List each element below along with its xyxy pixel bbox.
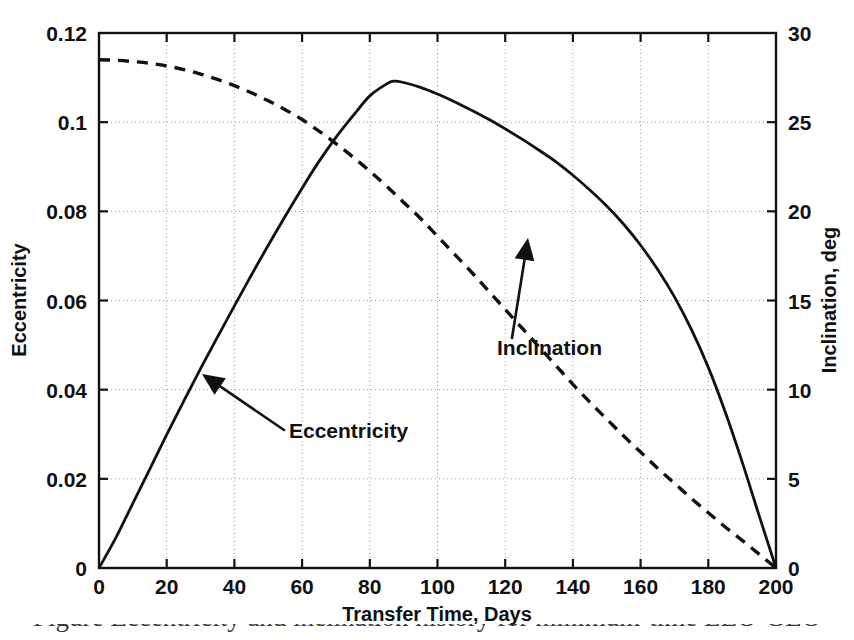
y-tick-label: 0.02 bbox=[46, 468, 87, 491]
y2-tick-label: 10 bbox=[788, 379, 811, 402]
y-tick-label: 0.06 bbox=[46, 290, 87, 313]
figure-container: 020406080100120140160180200 00.020.040.0… bbox=[0, 0, 854, 640]
x-tick-label: 20 bbox=[155, 575, 178, 598]
y-axis-title: Eccentricity bbox=[8, 242, 30, 356]
y2-tick-label: 0 bbox=[788, 557, 800, 580]
y-tick-label: 0.12 bbox=[46, 22, 87, 45]
x-tick-label: 40 bbox=[223, 575, 246, 598]
x-tick-label: 60 bbox=[290, 575, 313, 598]
x-tick-label: 140 bbox=[555, 575, 590, 598]
x-tick-label: 160 bbox=[623, 575, 658, 598]
chart-svg: 020406080100120140160180200 00.020.040.0… bbox=[0, 0, 854, 640]
annotation-label-eccentricity: Eccentricity bbox=[289, 419, 408, 442]
x-tick-label: 80 bbox=[358, 575, 381, 598]
y2-axis-title: Inclination, deg bbox=[818, 227, 840, 374]
x-tick-label: 0 bbox=[93, 575, 105, 598]
y2-tick-label: 25 bbox=[788, 111, 812, 134]
y-tick-label: 0 bbox=[75, 557, 87, 580]
y2-tick-label: 20 bbox=[788, 200, 811, 223]
y2-tick-label: 30 bbox=[788, 22, 811, 45]
x-tick-label: 120 bbox=[488, 575, 523, 598]
x-axis-title: Transfer Time, Days bbox=[342, 603, 532, 625]
y-tick-label: 0.08 bbox=[46, 200, 87, 223]
x-tick-label: 180 bbox=[691, 575, 726, 598]
y-tick-label: 0.1 bbox=[58, 111, 88, 134]
chart-background bbox=[0, 0, 854, 640]
y2-tick-label: 15 bbox=[788, 290, 812, 313]
x-tick-label: 100 bbox=[420, 575, 455, 598]
y2-tick-label: 5 bbox=[788, 468, 800, 491]
annotation-label-inclination: Inclination bbox=[497, 336, 602, 359]
y-tick-label: 0.04 bbox=[46, 379, 87, 402]
